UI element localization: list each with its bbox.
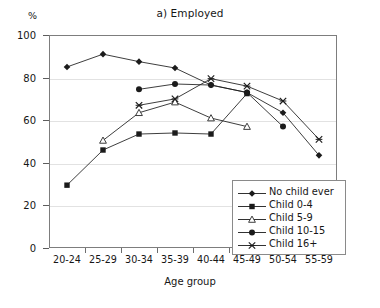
data-point-filled-square (100, 147, 105, 152)
x-axis-tick-label: 40-44 (197, 254, 225, 265)
x-axis-tick-mark (157, 248, 158, 253)
legend-label: Child 10-15 (267, 225, 325, 236)
data-point-filled-square (249, 204, 254, 209)
legend-label: No child ever (267, 186, 334, 197)
data-point-filled-circle (136, 86, 142, 92)
y-axis-tick-label: 20 (0, 200, 36, 211)
data-point-open-triangle (208, 115, 215, 121)
x-axis-tick-label: 20-24 (53, 254, 81, 265)
x-axis-tick-label: 50-54 (269, 254, 297, 265)
legend-item[interactable]: Child 16+ (237, 237, 340, 250)
data-point-filled-square (208, 131, 213, 136)
y-axis-unit-label: % (28, 10, 37, 21)
x-axis-tick-label: 30-34 (125, 254, 153, 265)
legend-marker-x-cross-icon (237, 237, 267, 250)
data-point-open-triangle (100, 137, 107, 143)
data-point-filled-diamond (136, 58, 143, 65)
chart-title: a) Employed (0, 7, 380, 19)
legend-marker-filled-circle-icon (237, 224, 267, 237)
data-point-filled-diamond (100, 51, 107, 58)
chart-legend: No child everChild 0-4Child 5-9Child 10-… (232, 180, 346, 255)
series-line (139, 79, 319, 140)
data-point-filled-circle (208, 82, 214, 88)
x-axis-tick-label: 25-29 (89, 254, 117, 265)
y-axis-tick-label: 0 (0, 243, 36, 254)
data-point-x-cross (316, 136, 323, 142)
data-point-x-cross (208, 75, 215, 81)
legend-item[interactable]: Child 10-15 (237, 224, 340, 237)
legend-item[interactable]: Child 0-4 (237, 198, 340, 211)
legend-marker-open-triangle-icon (237, 211, 267, 224)
x-axis-tick-label: 35-39 (161, 254, 189, 265)
x-axis-tick-mark (85, 248, 86, 253)
data-point-filled-circle (244, 90, 250, 96)
data-point-x-cross (280, 98, 287, 104)
x-axis-tick-mark (229, 248, 230, 253)
data-point-filled-square (172, 130, 177, 135)
y-axis-tick-label: 40 (0, 157, 36, 168)
legend-marker-filled-diamond-icon (237, 185, 267, 198)
y-axis-tick-label: 60 (0, 115, 36, 126)
x-axis-tick-label: 45-49 (233, 254, 261, 265)
data-point-filled-circle (280, 124, 286, 130)
y-axis-tick-label: 100 (0, 30, 36, 41)
y-axis-tick-mark (43, 248, 49, 249)
data-point-filled-diamond (64, 64, 71, 71)
data-point-filled-diamond (172, 65, 179, 72)
legend-label: Child 16+ (267, 238, 318, 249)
legend-label: Child 5-9 (267, 212, 313, 223)
legend-label: Child 0-4 (267, 199, 313, 210)
chart-container: a) Employed % 020406080100 20-2425-2930-… (0, 0, 380, 308)
legend-item[interactable]: No child ever (237, 185, 340, 198)
y-axis-tick-label: 80 (0, 72, 36, 83)
legend-item[interactable]: Child 5-9 (237, 211, 340, 224)
data-point-x-cross (249, 242, 256, 248)
x-axis-title: Age group (0, 276, 380, 287)
x-axis-tick-mark (193, 248, 194, 253)
data-point-filled-square (136, 131, 141, 136)
data-point-filled-diamond (249, 190, 256, 197)
x-axis-tick-label: 55-59 (305, 254, 333, 265)
legend-marker-filled-square-icon (237, 198, 267, 211)
data-point-filled-circle (249, 230, 255, 236)
data-point-x-cross (244, 83, 251, 89)
data-point-filled-square (64, 182, 69, 187)
x-axis-tick-mark (121, 248, 122, 253)
data-point-filled-circle (172, 81, 178, 87)
data-point-x-cross (136, 102, 143, 108)
